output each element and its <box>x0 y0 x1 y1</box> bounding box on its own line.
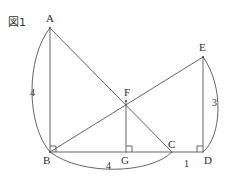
point-label-g: G <box>121 155 129 166</box>
length-CD: 1 <box>184 159 189 169</box>
vertex-dot-b <box>49 151 51 153</box>
point-label-c: C <box>168 139 175 150</box>
point-label-b: B <box>43 155 50 166</box>
arc-B-C <box>50 152 172 169</box>
point-label-d: D <box>204 155 212 166</box>
vertex-dot-a <box>49 27 51 29</box>
right-angle-marker-group <box>50 146 203 152</box>
figure-container: 図1 ABCDEFG 4413 <box>0 0 230 179</box>
right-angle-G <box>126 146 132 152</box>
segment-BE <box>50 57 203 152</box>
vertex-dot-e <box>202 56 204 58</box>
length-ED: 3 <box>212 98 217 108</box>
point-label-a: A <box>46 13 54 24</box>
length-AB: 4 <box>30 88 35 98</box>
figure-caption: 図1 <box>8 13 26 29</box>
segment-AC <box>50 28 172 152</box>
arc-group <box>32 28 218 169</box>
point-label-f: F <box>124 87 130 98</box>
right-angle-D <box>197 146 203 152</box>
length-BC: 4 <box>106 161 111 171</box>
vertex-dot-f <box>125 100 127 102</box>
point-label-e: E <box>199 42 206 53</box>
